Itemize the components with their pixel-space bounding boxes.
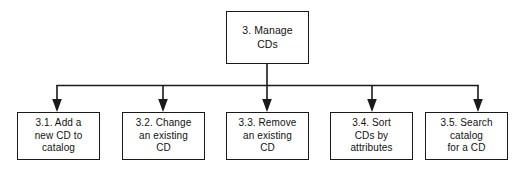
node-3-5-label: 3.5. Search catalog for a CD <box>437 117 495 155</box>
node-root-label: 3. Manage CDs <box>239 24 296 51</box>
arrowhead-icon <box>158 99 168 112</box>
node-3-3-remove-existing-cd[interactable]: 3.3. Remove an existing CD <box>226 112 309 160</box>
node-3-1-add-new-cd[interactable]: 3.1. Add a new CD to catalog <box>17 112 100 160</box>
node-3-1-label: 3.1. Add a new CD to catalog <box>32 117 86 155</box>
hierarchy-diagram: 3. Manage CDs 3.1. Add a new CD to catal… <box>0 0 532 170</box>
connector-arrow-to-3-1 <box>52 85 62 112</box>
node-3-5-search-catalog[interactable]: 3.5. Search catalog for a CD <box>425 112 508 160</box>
connector-arrow-to-3-5 <box>473 85 483 112</box>
connector-arrow-to-3-3 <box>262 85 272 112</box>
node-3-3-label: 3.3. Remove an existing CD <box>236 117 300 155</box>
node-root-manage-cds[interactable]: 3. Manage CDs <box>226 11 309 64</box>
connector-arrow-to-3-2 <box>158 85 168 112</box>
arrowhead-icon <box>367 99 377 112</box>
arrowhead-icon <box>473 99 483 112</box>
node-3-2-label: 3.2. Change an existing CD <box>133 117 195 155</box>
node-3-2-change-existing-cd[interactable]: 3.2. Change an existing CD <box>122 112 205 160</box>
arrowhead-icon <box>52 99 62 112</box>
arrowhead-icon <box>262 99 272 112</box>
node-3-4-label: 3.4. Sort CDs by attributes <box>347 117 395 155</box>
node-3-4-sort-cds-by-attributes[interactable]: 3.4. Sort CDs by attributes <box>330 112 413 160</box>
connector-arrow-to-3-4 <box>367 85 377 112</box>
